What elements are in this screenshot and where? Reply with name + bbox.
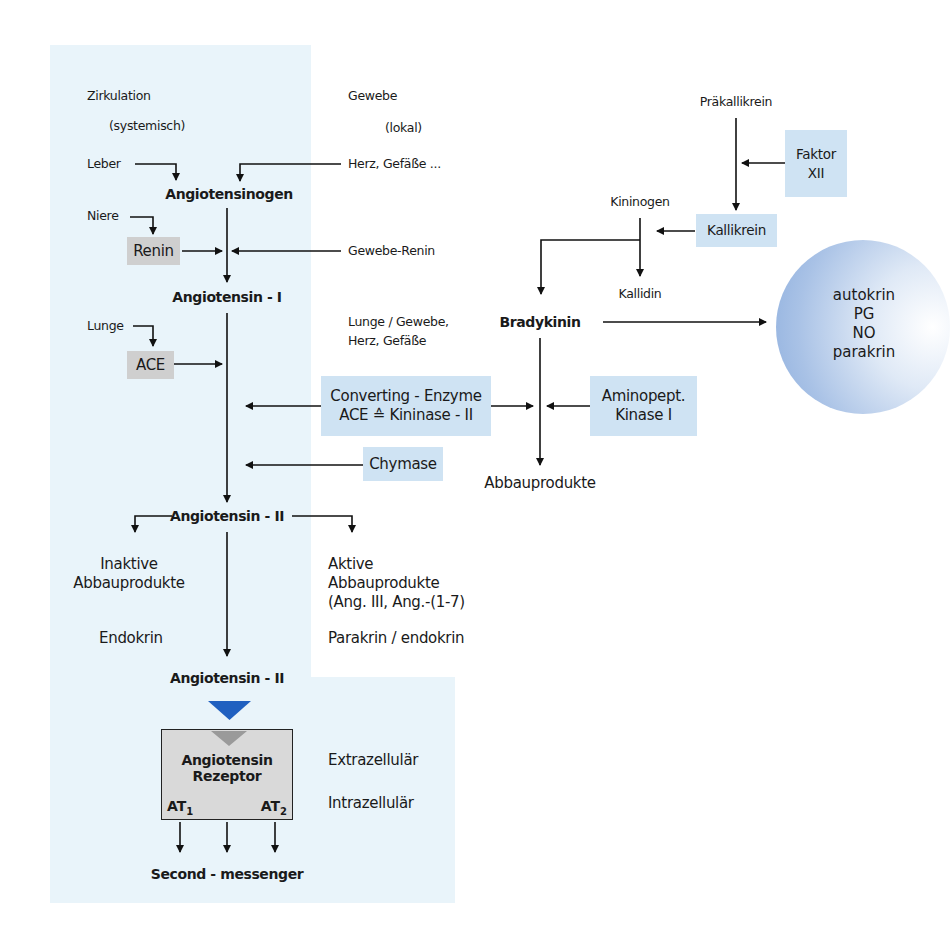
kininogen-node: Kininogen	[610, 194, 669, 210]
tissue-header: Gewebe	[348, 88, 397, 104]
inaktive-label-1: Inaktive	[100, 556, 158, 572]
endokrin-label: Endokrin	[99, 630, 163, 646]
aktive-label-3: (Ang. III, Ang.-(1-7)	[328, 594, 465, 610]
angiotensin-2-node: Angiotensin - II	[170, 508, 284, 524]
intracellular-label: Intrazellulär	[328, 795, 414, 811]
lunge-gewebe-label-2: Herz, Gefäße	[348, 333, 426, 349]
lunge-label: Lunge	[87, 318, 124, 334]
receptor-binding-notch	[211, 731, 247, 746]
lunge-gewebe-label-1: Lunge / Gewebe,	[348, 314, 449, 330]
angiotensinogen-node: Angiotensinogen	[165, 186, 293, 202]
second-messenger-node: Second - messenger	[151, 866, 303, 882]
parakrin-endokrin-label: Parakrin / endokrin	[328, 630, 464, 646]
aktive-label-1: Aktive	[328, 556, 373, 572]
tissue-subheader: (lokal)	[385, 120, 422, 136]
circulation-header: Zirkulation	[87, 88, 151, 104]
gewebe-renin-label: Gewebe-Renin	[348, 243, 435, 259]
abbauprodukte-node: Abbauprodukte	[484, 475, 595, 491]
kallidin-node: Kallidin	[619, 286, 662, 302]
leber-label: Leber	[87, 156, 121, 172]
angiotensin-1-node: Angiotensin - I	[172, 289, 281, 305]
extracellular-label: Extrazellulär	[328, 752, 418, 768]
aktive-label-2: Abbauprodukte	[328, 575, 439, 591]
herz-gefaesse-label: Herz, Gefäße ...	[348, 156, 441, 172]
angiotensin-2-target-node: Angiotensin - II	[170, 670, 284, 686]
praekallikrein-node: Präkallikrein	[700, 94, 773, 110]
circulation-subheader: (systemisch)	[109, 118, 185, 134]
ligand-triangle	[208, 701, 251, 720]
bradykinin-node: Bradykinin	[499, 314, 580, 330]
inaktive-label-2: Abbauprodukte	[73, 575, 184, 591]
niere-label: Niere	[87, 208, 119, 224]
